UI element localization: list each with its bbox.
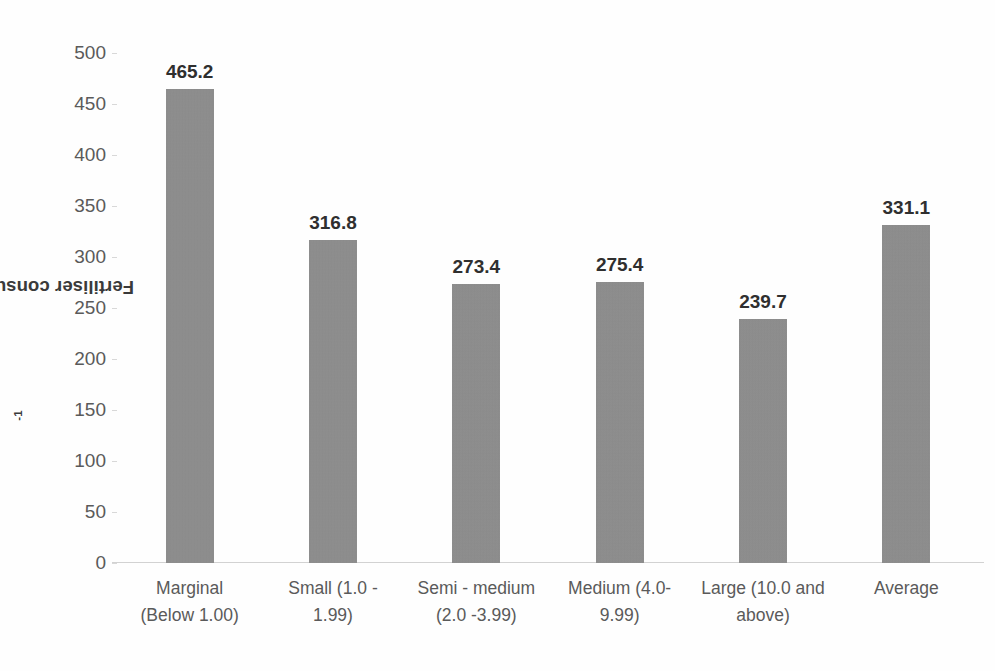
bar[interactable]: [739, 319, 787, 563]
bar[interactable]: [166, 89, 214, 564]
bar[interactable]: [882, 225, 930, 563]
y-axis-tick-label: 50: [85, 501, 106, 523]
bar[interactable]: [309, 240, 357, 563]
x-axis-label-line-2: 1.99): [261, 602, 404, 629]
y-axis-tick-label: 400: [74, 144, 106, 166]
bar[interactable]: [596, 282, 644, 563]
x-axis-label-line-1: Medium (4.0-: [568, 578, 671, 598]
bar-group: 465.2: [118, 53, 261, 563]
bar-series: 465.2316.8273.4275.4239.7331.1: [118, 53, 978, 563]
bar-group: 239.7: [691, 53, 834, 563]
y-axis-tick-mark: [112, 155, 117, 156]
y-axis-title: Fertiliser consumption ( kg ha-1): [0, 0, 46, 575]
x-axis-category-label: Small (1.0 -1.99): [261, 575, 404, 629]
y-axis-tick-mark: [112, 206, 117, 207]
bar-value-label: 275.4: [596, 254, 644, 276]
y-axis-tick-label: 300: [74, 246, 106, 268]
plot-area: 465.2316.8273.4275.4239.7331.1: [118, 53, 978, 563]
y-axis-tick-mark: [112, 359, 117, 360]
bar-value-label: 465.2: [166, 61, 214, 83]
x-axis-label-line-1: Small (1.0 -: [288, 578, 377, 598]
y-axis-title-exponent: -1: [12, 411, 24, 421]
y-axis-tick-mark: [112, 257, 117, 258]
y-axis-tick-label: 200: [74, 348, 106, 370]
bar-value-label: 239.7: [739, 291, 787, 313]
y-axis-tick-label: 450: [74, 93, 106, 115]
bar-value-label: 316.8: [309, 212, 357, 234]
y-axis-tick-labels: 500450400350300250200150100500: [46, 0, 112, 671]
y-axis-tick-label: 250: [74, 297, 106, 319]
y-axis-tick-mark: [112, 104, 117, 105]
x-axis-label-line-2: (Below 1.00): [118, 602, 261, 629]
y-axis-tick-label: 150: [74, 399, 106, 421]
y-axis-tick-mark: [112, 410, 117, 411]
bar-value-label: 273.4: [453, 256, 501, 278]
x-axis-label-line-1: Large (10.0 and: [701, 578, 825, 598]
bar-group: 273.4: [405, 53, 548, 563]
y-axis-tick-mark: [112, 512, 117, 513]
x-axis-label-line-1: Semi - medium: [417, 578, 535, 598]
x-axis-label-line-2: (2.0 -3.99): [405, 602, 548, 629]
y-axis-tick-label: 500: [74, 42, 106, 64]
x-axis-label-line-1: Average: [874, 578, 939, 598]
x-axis-category-label: Medium (4.0-9.99): [548, 575, 691, 629]
bar-value-label: 331.1: [883, 197, 931, 219]
y-axis-tick-mark: [112, 308, 117, 309]
x-axis-label-line-2: 9.99): [548, 602, 691, 629]
y-axis-tick-mark: [112, 563, 117, 564]
x-axis-label-line-1: Marginal: [156, 578, 223, 598]
bar-group: 275.4: [548, 53, 691, 563]
x-axis-category-label: Semi - medium(2.0 -3.99): [405, 575, 548, 629]
bar-group: 331.1: [835, 53, 978, 563]
x-axis-category-label: Marginal(Below 1.00): [118, 575, 261, 629]
bar-chart: Fertiliser consumption ( kg ha-1) 500450…: [0, 0, 995, 671]
x-axis-label-line-2: above): [691, 602, 834, 629]
bar[interactable]: [452, 284, 500, 563]
y-axis-tick-label: 350: [74, 195, 106, 217]
x-axis-category-labels: Marginal(Below 1.00)Small (1.0 -1.99)Sem…: [118, 575, 978, 671]
y-axis-tick-mark: [112, 53, 117, 54]
x-axis-category-label: Large (10.0 andabove): [691, 575, 834, 629]
y-axis-tick-mark: [112, 461, 117, 462]
y-axis-tick-label: 100: [74, 450, 106, 472]
y-axis-tick-label: 0: [95, 552, 106, 574]
bar-group: 316.8: [261, 53, 404, 563]
x-axis-category-label: Average: [835, 575, 978, 602]
